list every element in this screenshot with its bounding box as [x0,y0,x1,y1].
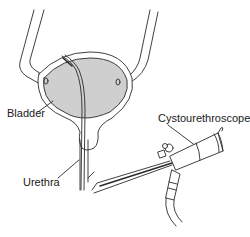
label-bladder: Bladder [7,108,45,119]
ureter-opening-right [116,79,120,85]
cystourethroscope [92,127,223,226]
ureter-opening-left [44,78,48,84]
body-outline-right [129,10,158,94]
label-urethra: Urethra [23,177,60,188]
urethra-leader-line [58,160,79,178]
label-cystourethroscope: Cystourethroscope [158,113,250,124]
scope-leader-line [168,125,196,146]
